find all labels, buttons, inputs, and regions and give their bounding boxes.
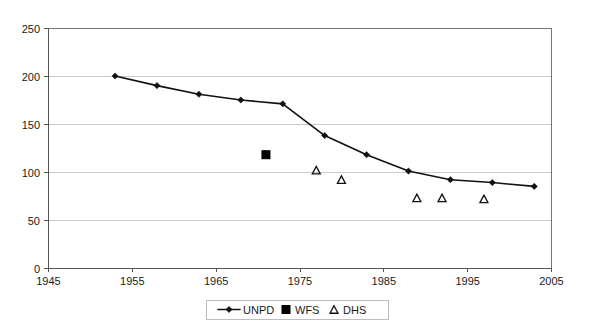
mortality-trend-chart: 050100150200250 194519551965197519851995… <box>0 0 594 332</box>
y-tick-label-150: 150 <box>22 119 40 131</box>
x-tick-label-2005: 2005 <box>539 275 563 287</box>
x-tick-label-1995: 1995 <box>455 275 479 287</box>
legend-label-unpd: UNPD <box>243 304 274 316</box>
y-tick-label-250: 250 <box>22 23 40 35</box>
x-tick-label-1985: 1985 <box>372 275 396 287</box>
y-tick-label-100: 100 <box>22 167 40 179</box>
x-tick-label-1975: 1975 <box>288 275 312 287</box>
x-tick-label-1955: 1955 <box>120 275 144 287</box>
y-tick-label-200: 200 <box>22 71 40 83</box>
legend-item-wfs[interactable]: WFS <box>282 304 319 316</box>
x-tick-label-1945: 1945 <box>36 275 60 287</box>
legend-label-dhs: DHS <box>343 304 366 316</box>
legend-square-marker-icon <box>282 306 290 314</box>
series-wfs <box>262 151 270 159</box>
legend-label-wfs: WFS <box>295 304 319 316</box>
chart-legend: UNPDWFSDHS <box>207 301 389 320</box>
x-tick-label-1965: 1965 <box>204 275 228 287</box>
chart-container: 050100150200250 194519551965197519851995… <box>0 0 594 332</box>
datapoint-wfs-1971 <box>262 151 270 159</box>
y-tick-label-0: 0 <box>34 263 40 275</box>
y-tick-label-50: 50 <box>28 215 40 227</box>
